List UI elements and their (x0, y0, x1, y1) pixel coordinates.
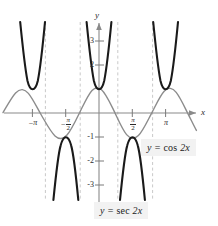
equation-label-secant: y=sec 2x (94, 202, 148, 219)
y-tick-label-neg-2: -2 (80, 156, 94, 165)
y-tick-label-neg-3: -3 (80, 180, 94, 189)
equation-lhs: y (147, 142, 152, 153)
x-axis-label: x (201, 107, 205, 117)
x-tick-label-neg-pi: −π (22, 118, 44, 128)
secant-branch (153, 22, 178, 89)
x-tick-label-pi: π (159, 118, 173, 127)
y-tick-label-3: 3 (84, 36, 94, 45)
trig-graph-figure: y x −π − π 2 π 2 π 3 2 -1 -2 -3 y=cos 2x… (0, 0, 218, 226)
secant-branch (53, 137, 78, 200)
equals-sign: = (152, 142, 164, 153)
equation-argument: 2x (180, 142, 190, 153)
plot-canvas (0, 0, 218, 226)
equation-function: cos (163, 142, 177, 153)
pi-over-two-fraction: π 2 (130, 117, 136, 133)
pi-over-two-fraction: π 2 (66, 117, 72, 133)
pi-glyph: π (33, 118, 37, 127)
y-tick-label-neg-1: -1 (80, 132, 94, 141)
secant-branch (20, 22, 45, 89)
x-tick-label-pi-over-2: π 2 (124, 117, 142, 133)
equation-label-cosine: y=cos 2x (141, 139, 196, 156)
equation-lhs: y (100, 205, 105, 216)
x-tick-label-neg-pi-over-2: − π 2 (54, 117, 78, 133)
equation-argument: 2x (133, 205, 143, 216)
y-tick-label-2: 2 (84, 60, 94, 69)
equals-sign: = (105, 205, 117, 216)
equation-function: sec (116, 205, 129, 216)
y-axis-label: y (95, 10, 99, 20)
